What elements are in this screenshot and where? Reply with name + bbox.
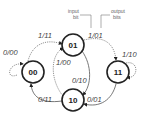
output-pointer-line [101, 15, 110, 28]
state-01-label: 01 [69, 41, 78, 50]
edge-00-00 [10, 64, 23, 76]
annotation-bits-label: bits [113, 14, 121, 20]
state-00: 00 [22, 61, 44, 83]
edge-label-1-11: 1/11 [38, 31, 52, 40]
annotation-input-bit: input bit [68, 8, 91, 28]
state-00-label: 00 [29, 68, 38, 77]
annotation-output-bits: output bits [101, 8, 126, 28]
state-11-label: 11 [114, 68, 123, 77]
edge-10-01 [53, 48, 63, 96]
annotation-bit-label: bit [73, 14, 79, 20]
edge-label-0-10: 0/10 [72, 76, 87, 85]
edge-01-10 [82, 51, 90, 95]
edge-label-0-11: 0/11 [38, 95, 52, 104]
state-01: 01 [62, 34, 84, 56]
edge-label-0-00: 0/00 [3, 48, 18, 57]
edge-label-1-01: 1/01 [88, 31, 103, 40]
state-10-label: 10 [69, 96, 78, 105]
edge-label-1-00: 1/00 [56, 58, 71, 67]
edge-label-1-10: 1/10 [122, 50, 137, 59]
state-11: 11 [107, 61, 129, 83]
edge-01-11 [84, 39, 116, 60]
state-diagram: input bit output bits 0/00 1/11 1/01 1/1… [0, 0, 149, 120]
state-10: 10 [62, 89, 84, 111]
edge-label-0-01: 0/01 [87, 95, 102, 104]
input-pointer-line [80, 15, 91, 28]
